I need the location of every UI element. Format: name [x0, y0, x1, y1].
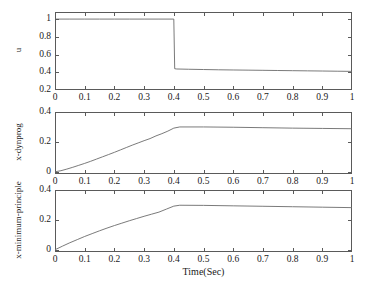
- x-tick-mark-top: [233, 12, 234, 16]
- x-tick-mark: [263, 86, 264, 90]
- x-tick-mark-top: [204, 112, 205, 116]
- y-tick-mark: [55, 72, 59, 73]
- y-tick-mark: [55, 37, 59, 38]
- ytick-label: 0.2: [23, 137, 51, 147]
- ytick-label: 0: [23, 245, 51, 255]
- x-tick-mark: [322, 170, 323, 174]
- ytick-label: 0: [23, 167, 51, 177]
- x-tick-mark: [114, 248, 115, 252]
- x-tick-mark: [204, 170, 205, 174]
- x-tick-mark: [174, 170, 175, 174]
- x-tick-mark-top: [114, 112, 115, 116]
- xtick-label: 0.8: [279, 93, 307, 103]
- xtick-label: 0.1: [71, 177, 99, 187]
- y-tick-mark: [55, 220, 59, 221]
- subplot-u: [55, 12, 352, 90]
- y-tick-mark-right: [348, 19, 352, 20]
- x-tick-mark-top: [174, 190, 175, 194]
- xtick-label: 0.3: [130, 255, 158, 265]
- y-tick-mark: [55, 19, 59, 20]
- x-tick-mark: [263, 170, 264, 174]
- xtick-label: 0.8: [279, 177, 307, 187]
- y-tick-mark: [55, 250, 59, 251]
- xtick-label: 0.7: [249, 93, 277, 103]
- x-tick-mark-top: [263, 112, 264, 116]
- x-tick-mark: [85, 248, 86, 252]
- figure-canvas: u 0.20.40.60.81 00.10.20.30.40.50.60.70.…: [0, 0, 370, 288]
- xtick-label: 0.2: [100, 255, 128, 265]
- xtick-label: 0.3: [130, 177, 158, 187]
- x-tick-mark-top: [233, 112, 234, 116]
- y-tick-mark-right: [348, 250, 352, 251]
- xtick-label: 0.1: [71, 93, 99, 103]
- ytick-label: 0.8: [23, 32, 51, 42]
- x-tick-mark-top: [174, 112, 175, 116]
- x-tick-mark-top: [144, 12, 145, 16]
- x-tick-mark-top: [233, 190, 234, 194]
- x-tick-mark-top: [85, 12, 86, 16]
- ytick-label: 0.4: [23, 107, 51, 117]
- y-tick-mark: [55, 55, 59, 56]
- x-tick-mark: [174, 86, 175, 90]
- x-tick-mark: [174, 248, 175, 252]
- y-tick-mark-right: [348, 142, 352, 143]
- xtick-label: 0.2: [100, 93, 128, 103]
- xtick-label: 0.5: [190, 177, 218, 187]
- xtick-label: 0.6: [219, 93, 247, 103]
- xlabel-time: Time(Sec): [55, 266, 352, 277]
- x-tick-mark-top: [85, 112, 86, 116]
- x-tick-mark-top: [322, 12, 323, 16]
- xtick-label: 0: [41, 255, 69, 265]
- x-tick-mark: [293, 248, 294, 252]
- xtick-label: 0.7: [249, 177, 277, 187]
- x-tick-mark: [204, 248, 205, 252]
- ytick-label: 0.2: [23, 215, 51, 225]
- x-tick-mark: [85, 170, 86, 174]
- xtick-label: 0.5: [190, 255, 218, 265]
- x-tick-mark: [322, 248, 323, 252]
- ytick-label: 0.6: [23, 50, 51, 60]
- plot-line-x-dynprog: [55, 112, 352, 174]
- ylabel-x-minimum-principle: x-minimum-principle: [13, 177, 23, 263]
- xtick-label: 0.4: [160, 177, 188, 187]
- xtick-label: 0.3: [130, 93, 158, 103]
- xtick-label: 1: [338, 255, 366, 265]
- x-tick-mark: [144, 248, 145, 252]
- x-tick-mark-top: [322, 190, 323, 194]
- plot-line-x-minimum-principle: [55, 190, 352, 252]
- x-tick-mark-top: [114, 190, 115, 194]
- xtick-label: 1: [338, 177, 366, 187]
- xtick-label: 0.1: [71, 255, 99, 265]
- x-tick-mark-top: [204, 12, 205, 16]
- xtick-label: 0.6: [219, 255, 247, 265]
- y-tick-mark-right: [348, 220, 352, 221]
- y-tick-mark-right: [348, 72, 352, 73]
- xtick-label: 0.9: [308, 93, 336, 103]
- x-tick-mark-top: [85, 190, 86, 194]
- ytick-label: 0.4: [23, 185, 51, 195]
- x-tick-mark-top: [322, 112, 323, 116]
- x-tick-mark: [293, 86, 294, 90]
- x-tick-mark: [233, 170, 234, 174]
- x-tick-mark: [233, 248, 234, 252]
- x-tick-mark-top: [263, 12, 264, 16]
- x-tick-mark: [85, 86, 86, 90]
- y-tick-mark: [55, 172, 59, 173]
- x-tick-mark-top: [204, 190, 205, 194]
- x-tick-mark-top: [293, 112, 294, 116]
- x-tick-mark: [144, 86, 145, 90]
- x-tick-mark-top: [114, 12, 115, 16]
- xtick-label: 1: [338, 93, 366, 103]
- y-tick-mark-right: [348, 55, 352, 56]
- x-tick-mark: [144, 170, 145, 174]
- xtick-label: 0.9: [308, 177, 336, 187]
- x-tick-mark: [293, 170, 294, 174]
- xtick-label: 0.6: [219, 177, 247, 187]
- x-tick-mark: [233, 86, 234, 90]
- xtick-label: 0.9: [308, 255, 336, 265]
- ytick-label: 0.4: [23, 67, 51, 77]
- xtick-label: 0.4: [160, 255, 188, 265]
- x-tick-mark: [263, 248, 264, 252]
- x-tick-mark: [204, 86, 205, 90]
- ylabel-x-dynprog: x-dynprog: [13, 99, 23, 185]
